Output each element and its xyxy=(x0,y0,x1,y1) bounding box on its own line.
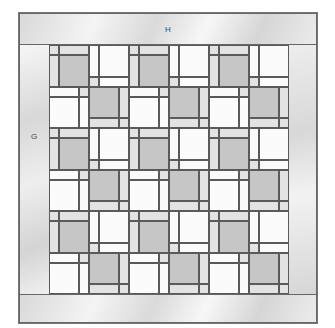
white-piece xyxy=(129,180,159,212)
quilt-block-b xyxy=(89,128,129,170)
quilt-block-c xyxy=(209,87,249,129)
light-strip-piece xyxy=(129,128,139,138)
light-strip-piece xyxy=(129,55,139,87)
gray-square-piece xyxy=(59,138,89,170)
quilt-block-d xyxy=(169,87,209,129)
white-piece xyxy=(129,170,159,180)
gray-square-piece xyxy=(219,138,249,170)
white-piece xyxy=(209,180,239,212)
gray-square-piece xyxy=(89,170,119,202)
left-border-g xyxy=(19,44,50,295)
white-piece xyxy=(89,45,99,77)
white-piece xyxy=(129,253,159,263)
white-piece xyxy=(49,180,79,212)
light-strip-piece xyxy=(279,201,289,211)
white-piece xyxy=(259,243,289,253)
white-piece xyxy=(259,160,289,170)
quilt-block-d xyxy=(249,253,289,295)
quilt-block-d xyxy=(89,87,129,129)
gray-square-piece xyxy=(59,55,89,87)
light-strip-piece xyxy=(209,128,219,138)
quilt-block-b xyxy=(249,45,289,87)
white-piece xyxy=(179,160,209,170)
white-piece xyxy=(209,253,239,263)
light-strip-piece xyxy=(129,138,139,170)
light-strip-piece xyxy=(159,87,169,97)
quilt-block-c xyxy=(129,170,169,212)
gray-square-piece xyxy=(89,253,119,285)
quilt-block-a xyxy=(129,211,169,253)
light-strip-piece xyxy=(169,243,179,253)
light-strip-piece xyxy=(139,211,169,221)
light-strip-piece xyxy=(279,87,289,119)
quilt-block-c xyxy=(209,170,249,212)
light-strip-piece xyxy=(239,170,249,180)
light-strip-piece xyxy=(209,211,219,221)
quilt-block-a xyxy=(49,128,89,170)
white-piece xyxy=(179,128,209,160)
quilt-block-a xyxy=(129,45,169,87)
light-strip-piece xyxy=(239,253,249,263)
quilt-block-b xyxy=(89,45,129,87)
white-piece xyxy=(129,263,159,295)
white-piece xyxy=(169,211,179,243)
right-border xyxy=(288,44,317,295)
gray-square-piece xyxy=(219,221,249,253)
white-piece xyxy=(89,128,99,160)
white-piece xyxy=(159,180,169,212)
light-strip-piece xyxy=(119,87,129,119)
light-strip-piece xyxy=(199,170,209,202)
white-piece xyxy=(79,97,89,129)
light-strip-piece xyxy=(129,45,139,55)
quilt-block-a xyxy=(129,128,169,170)
white-piece xyxy=(99,211,129,243)
border-label-g: G xyxy=(31,132,37,141)
white-piece xyxy=(179,77,209,87)
light-strip-piece xyxy=(219,128,249,138)
white-piece xyxy=(159,263,169,295)
quilt-block-d xyxy=(169,253,209,295)
light-strip-piece xyxy=(209,55,219,87)
light-strip-piece xyxy=(219,211,249,221)
light-strip-piece xyxy=(159,170,169,180)
white-piece xyxy=(209,87,239,97)
light-strip-piece xyxy=(79,253,89,263)
light-strip-piece xyxy=(209,221,219,253)
light-strip-piece xyxy=(279,170,289,202)
light-strip-piece xyxy=(89,284,119,294)
light-strip-piece xyxy=(209,138,219,170)
white-piece xyxy=(259,128,289,160)
quilt-block-d xyxy=(89,253,129,295)
white-piece xyxy=(249,128,259,160)
light-strip-piece xyxy=(159,253,169,263)
light-strip-piece xyxy=(119,170,129,202)
light-strip-piece xyxy=(129,211,139,221)
white-piece xyxy=(129,97,159,129)
gray-square-piece xyxy=(139,138,169,170)
light-strip-piece xyxy=(89,77,99,87)
white-piece xyxy=(99,160,129,170)
white-piece xyxy=(49,170,79,180)
quilt-block-d xyxy=(249,170,289,212)
white-piece xyxy=(239,180,249,212)
light-strip-piece xyxy=(249,160,259,170)
light-strip-piece xyxy=(49,128,59,138)
white-piece xyxy=(99,45,129,77)
light-strip-piece xyxy=(49,45,59,55)
white-piece xyxy=(49,97,79,129)
light-strip-piece xyxy=(89,160,99,170)
white-piece xyxy=(249,45,259,77)
light-strip-piece xyxy=(119,253,129,285)
quilt-block-a xyxy=(49,45,89,87)
quilt-block-c xyxy=(129,253,169,295)
gray-square-piece xyxy=(169,87,199,119)
border-label-h: H xyxy=(165,25,171,34)
quilt-block-a xyxy=(209,211,249,253)
light-strip-piece xyxy=(279,253,289,285)
light-strip-piece xyxy=(59,128,89,138)
white-piece xyxy=(249,211,259,243)
quilt-block-d xyxy=(249,87,289,129)
light-strip-piece xyxy=(89,118,119,128)
gray-square-piece xyxy=(249,87,279,119)
quilt-block-c xyxy=(49,253,89,295)
